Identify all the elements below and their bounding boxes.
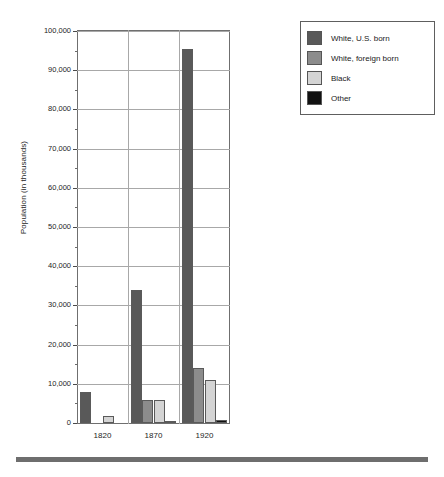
gridline [77,70,230,71]
gridline [77,149,230,150]
y-tick-minor [75,207,77,208]
legend-label: Black [331,74,351,83]
x-tick-label: 1870 [145,432,163,440]
gridline [77,188,230,189]
gridline [77,266,230,267]
y-tick-mark [73,423,77,424]
y-tick-mark [73,227,77,228]
y-tick-mark [73,384,77,385]
y-tick-label: 0 [67,419,71,427]
bar [205,380,216,423]
plot-area: 010,00020,00030,00040,00050,00060,00070,… [77,30,230,424]
y-tick-minor [75,168,77,169]
legend-swatch-icon [307,51,322,65]
y-tick-label: 20,000 [48,341,71,349]
y-tick-mark [73,345,77,346]
y-tick-mark [73,31,77,32]
legend-item[interactable]: White, foreign born [307,48,428,68]
legend-item[interactable]: Other [307,88,428,108]
bottom-rule [16,457,428,462]
legend-swatch-icon [307,31,322,45]
legend-item[interactable]: Black [307,68,428,88]
x-tick-label: 1820 [94,432,112,440]
y-tick-mark [73,305,77,306]
legend-label: Other [331,94,351,103]
y-tick-minor [75,90,77,91]
y-tick-mark [73,149,77,150]
y-tick-mark [73,188,77,189]
y-tick-minor [75,364,77,365]
y-tick-label: 60,000 [48,184,71,192]
bar [193,368,204,423]
gridline [77,227,230,228]
bar [165,421,176,423]
gridline [77,345,230,346]
bar [216,420,227,423]
bar [103,416,114,423]
legend-swatch-icon [307,91,322,105]
y-tick-label: 80,000 [48,106,71,114]
y-tick-label: 40,000 [48,262,71,270]
bar [142,400,153,423]
y-tick-label: 90,000 [48,66,71,74]
bar [154,400,165,423]
bar [182,49,193,423]
bar [80,392,91,423]
legend-label: White, foreign born [331,54,399,63]
gridline [77,305,230,306]
y-tick-label: 70,000 [48,145,71,153]
y-tick-label: 50,000 [48,223,71,231]
y-tick-minor [75,325,77,326]
y-tick-minor [75,129,77,130]
legend-item[interactable]: White, U.S. born [307,28,428,48]
x-tick-label: 1920 [196,432,214,440]
y-tick-label: 10,000 [48,380,71,388]
legend-label: White, U.S. born [331,34,390,43]
legend-swatch-icon [307,71,322,85]
y-tick-minor [75,403,77,404]
category-separator [128,30,129,424]
y-tick-minor [75,286,77,287]
y-tick-mark [73,266,77,267]
y-tick-label: 100,000 [44,27,71,35]
chart-legend: White, U.S. bornWhite, foreign bornBlack… [300,21,435,115]
gridline [77,31,230,32]
y-tick-minor [75,247,77,248]
y-tick-mark [73,109,77,110]
y-tick-minor [75,51,77,52]
gridline [77,109,230,110]
y-tick-label: 30,000 [48,302,71,310]
y-tick-mark [73,70,77,71]
y-axis-title: Population (in thousands) [19,118,28,258]
chart-figure: Population (in thousands) 010,00020,0003… [0,0,444,477]
category-separator [179,30,180,424]
bar [131,290,142,423]
